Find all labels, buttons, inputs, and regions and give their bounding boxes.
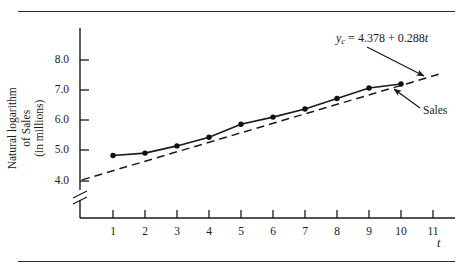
x-axis-title: t <box>437 236 440 251</box>
data-point-t1 <box>110 153 115 158</box>
x-tick-label-4: 4 <box>198 226 220 238</box>
x-tick-label-5: 5 <box>230 226 252 238</box>
x-tick-label-2: 2 <box>134 226 156 238</box>
trend-equation-label: yc = 4.378 + 0.288t <box>336 31 428 46</box>
x-tick-label-1: 1 <box>102 226 124 238</box>
data-point-t4 <box>206 135 211 140</box>
y-tick-label-4: 4.0 <box>39 175 69 187</box>
data-point-t3 <box>174 143 179 148</box>
y-axis-ticks <box>80 60 89 181</box>
data-point-t8 <box>334 96 339 101</box>
x-tick-label-8: 8 <box>326 226 348 238</box>
y-axis-title-line-2: of Sales <box>19 69 33 187</box>
data-point-t10 <box>398 81 403 86</box>
y-tick-label-7: 7.0 <box>39 84 69 96</box>
x-tick-label-6: 6 <box>262 226 284 238</box>
x-tick-label-3: 3 <box>166 226 188 238</box>
x-tick-label-10: 10 <box>390 226 412 238</box>
data-point-t2 <box>142 150 147 155</box>
sales-callout-label: Sales <box>423 104 447 116</box>
sales-leader-arrow <box>394 89 420 108</box>
sales-series-line <box>113 84 401 156</box>
equation-leader-arrow <box>367 47 424 76</box>
x-tick-label-11: 11 <box>422 226 444 238</box>
data-point-t9 <box>366 85 371 90</box>
data-point-t7 <box>302 106 307 111</box>
figure-container: Natural logarithm of Sales (in millions)… <box>0 0 465 268</box>
x-tick-label-7: 7 <box>294 226 316 238</box>
y-tick-label-6: 6.0 <box>39 114 69 126</box>
sales-series-markers <box>110 81 403 158</box>
x-tick-label-9: 9 <box>358 226 380 238</box>
y-tick-label-8: 8.0 <box>39 54 69 66</box>
equation-t-variable: t <box>425 31 428 45</box>
y-axis-title-line-1: Natural logarithm <box>6 69 20 187</box>
y-tick-label-5: 5.0 <box>39 144 69 156</box>
data-point-t5 <box>238 122 243 127</box>
axis-break-mark-upper <box>73 191 87 198</box>
data-point-t6 <box>270 114 275 119</box>
x-axis-ticks <box>113 210 433 218</box>
trend-line-dashed <box>82 73 442 180</box>
equation-body: = 4.378 + 0.288 <box>345 31 425 45</box>
